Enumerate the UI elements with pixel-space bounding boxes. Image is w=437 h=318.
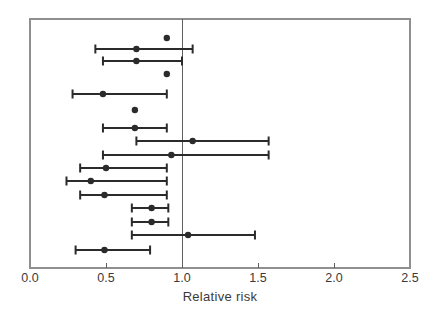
point-estimate-dot [133, 58, 139, 64]
x-tick-label: 0.0 [21, 271, 38, 285]
point-estimate-dot [103, 165, 109, 171]
point-estimate-dot [88, 178, 94, 184]
point-estimate-dot [164, 71, 170, 77]
point-estimate-dot [148, 219, 154, 225]
point-estimate-dot [100, 91, 106, 97]
point-estimate-dot [168, 152, 174, 158]
point-estimate-dot [164, 35, 170, 41]
point-estimate-dot [101, 192, 107, 198]
plot-frame [30, 19, 410, 268]
forest-plot-figure: 0.00.51.01.52.02.5 Relative risk [0, 0, 437, 318]
x-tick-label: 2.0 [325, 271, 342, 285]
point-estimate-dot [101, 247, 107, 253]
x-tick-label: 2.5 [401, 271, 418, 285]
point-estimate-dot [148, 205, 154, 211]
forest-plot-canvas: 0.00.51.01.52.02.5 [0, 0, 437, 318]
point-estimate-dot [189, 138, 195, 144]
x-axis-title: Relative risk [30, 289, 410, 304]
x-tick-label: 1.0 [173, 271, 190, 285]
point-estimate-dot [133, 46, 139, 52]
point-estimate-dot [132, 107, 138, 113]
point-estimate-dot [185, 232, 191, 238]
point-estimate-dot [132, 125, 138, 131]
x-tick-label: 1.5 [249, 271, 266, 285]
x-tick-label: 0.5 [97, 271, 114, 285]
